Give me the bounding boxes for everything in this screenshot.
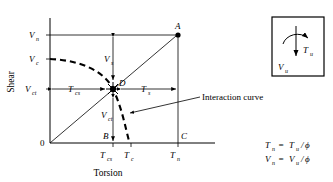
point-label-b: B: [103, 131, 109, 141]
equation-vn: V n = V u / ϕ: [265, 154, 310, 166]
svg-text:ct: ct: [32, 90, 37, 96]
dimension-label-vs: V s: [104, 54, 114, 66]
svg-text:T: T: [170, 150, 176, 160]
svg-text:V: V: [104, 54, 111, 64]
origin-label: 0: [40, 138, 45, 148]
y-tick-label-vct: V ct: [25, 84, 37, 96]
svg-text:T: T: [100, 150, 106, 160]
interaction-curve-annotation: Interaction curve: [202, 92, 263, 102]
svg-text:cs: cs: [107, 156, 113, 162]
svg-text:ct: ct: [108, 116, 113, 122]
svg-text:u: u: [310, 51, 313, 57]
svg-text:V: V: [289, 154, 296, 164]
x-axis-title: Torsion: [94, 168, 123, 178]
svg-text:u: u: [296, 146, 299, 152]
svg-text:ϕ: ϕ: [305, 154, 310, 164]
svg-text:ϕ: ϕ: [305, 140, 310, 150]
dimension-label-tcs: T cs: [68, 84, 81, 96]
svg-text:T: T: [124, 150, 130, 160]
svg-text:V: V: [29, 54, 36, 64]
svg-text:V: V: [25, 84, 32, 94]
svg-text:c: c: [36, 60, 39, 66]
dimension-label-vct: V ct: [101, 110, 113, 122]
svg-text:s: s: [148, 90, 151, 96]
point-label-a: A: [174, 21, 181, 31]
diagram-page: V n V c V ct 0 T cs T c T n A B C D: [0, 0, 333, 182]
svg-text:V: V: [101, 110, 108, 120]
interaction-diagram: V n V c V ct 0 T cs T c T n A B C D: [0, 0, 333, 182]
point-label-d: D: [118, 78, 126, 88]
y-axis-title: Shear: [6, 70, 16, 92]
svg-text:n: n: [36, 36, 39, 42]
equation-tn: T n = T u / ϕ: [265, 140, 310, 152]
svg-text:n: n: [272, 146, 275, 152]
svg-text:u: u: [285, 68, 288, 74]
svg-text:s: s: [111, 60, 114, 66]
svg-text:T: T: [265, 140, 271, 150]
y-tick-label-vc: V c: [29, 54, 39, 66]
svg-text:n: n: [177, 156, 180, 162]
svg-text:T: T: [289, 140, 295, 150]
point-a-marker: [175, 32, 180, 37]
svg-text:n: n: [272, 160, 275, 166]
svg-text:=: =: [278, 154, 284, 164]
svg-text:cs: cs: [75, 90, 81, 96]
force-diagram-box: T u V u: [272, 17, 324, 76]
annotation-leader-line: [130, 97, 200, 113]
dimension-label-ts: T s: [141, 84, 151, 96]
x-tick-label-tn: T n: [170, 150, 180, 162]
svg-text:u: u: [296, 160, 299, 166]
svg-text:V: V: [29, 30, 36, 40]
y-tick-label-vn: V n: [29, 30, 39, 42]
x-tick-label-tcs: T cs: [100, 150, 113, 162]
svg-text:V: V: [265, 154, 272, 164]
svg-text:c: c: [131, 156, 134, 162]
svg-text:=: =: [278, 140, 284, 150]
interaction-curve: [50, 59, 129, 141]
point-label-c: C: [181, 131, 188, 141]
x-tick-label-tc: T c: [124, 150, 134, 162]
